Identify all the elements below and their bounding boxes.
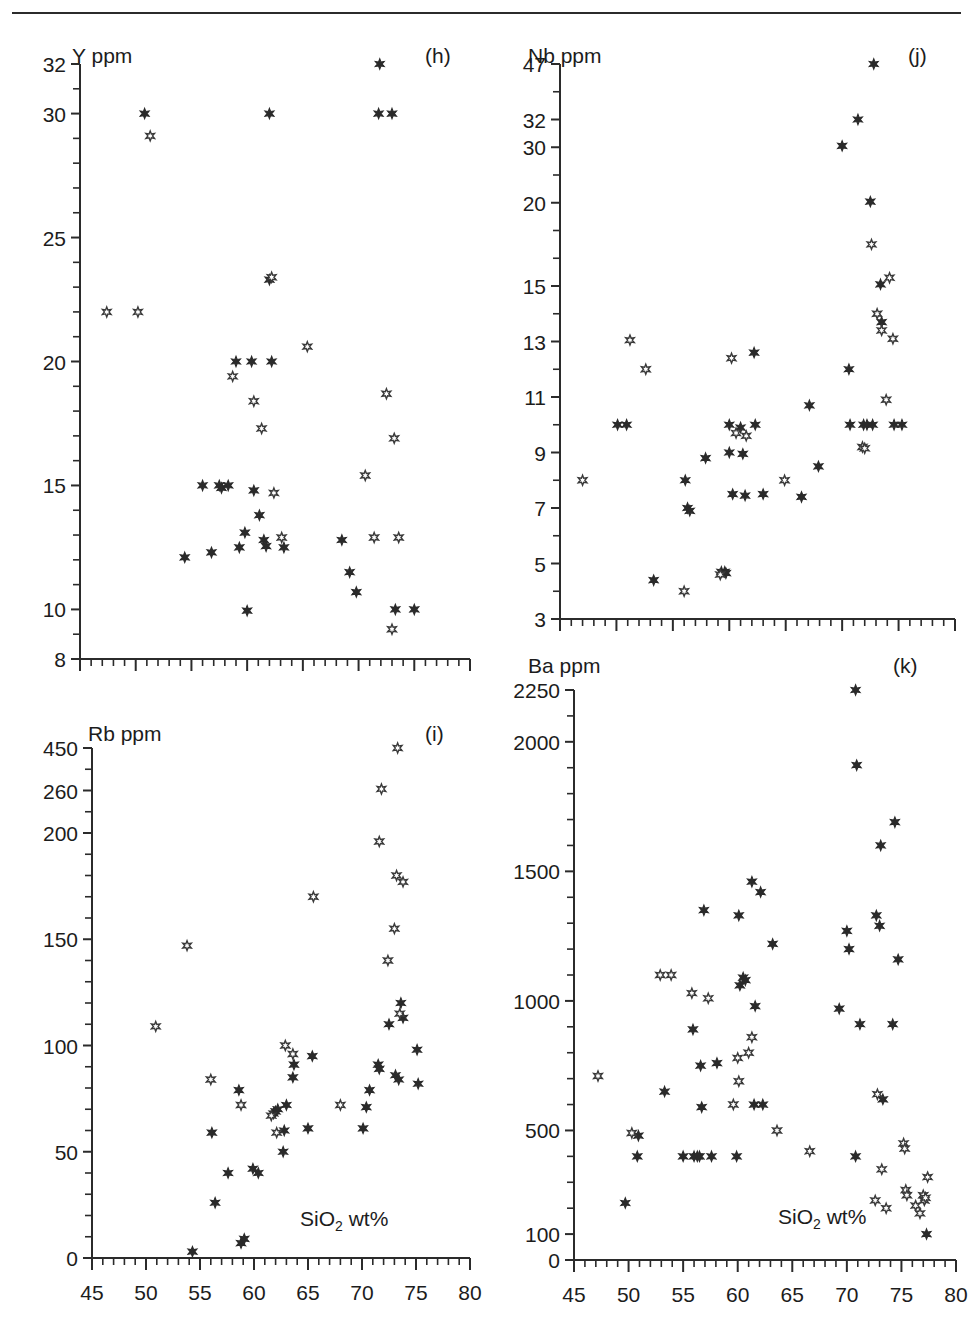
- data-point-open: [390, 433, 399, 443]
- data-point-filled: [374, 108, 383, 118]
- data-point-filled: [751, 1001, 760, 1011]
- y-tick-label: 450: [43, 737, 78, 760]
- data-point-open: [877, 325, 886, 335]
- x-tick-label: 60: [242, 1281, 265, 1304]
- data-point-open: [911, 1201, 920, 1211]
- data-point-filled: [699, 905, 708, 915]
- data-point-filled: [875, 921, 884, 931]
- y-tick-label: 100: [525, 1223, 560, 1246]
- data-point-open: [916, 1208, 925, 1218]
- x-tick-label: 50: [617, 1283, 640, 1306]
- data-point-open: [375, 837, 384, 847]
- data-point-filled: [345, 567, 354, 577]
- data-point-filled: [391, 604, 400, 614]
- x-tick-label: 80: [944, 1283, 967, 1306]
- y-tick-label: 9: [534, 442, 546, 465]
- data-point-filled: [282, 1100, 291, 1110]
- data-point-open: [183, 941, 192, 951]
- data-point-filled: [249, 485, 258, 495]
- data-point-open: [873, 309, 882, 319]
- data-point-filled: [701, 453, 710, 463]
- data-point-filled: [741, 490, 750, 500]
- data-point-filled: [265, 108, 274, 118]
- data-point-filled: [768, 939, 777, 949]
- data-point-filled: [725, 447, 734, 457]
- x-tick-label: 75: [890, 1283, 913, 1306]
- data-point-filled: [288, 1072, 297, 1082]
- data-point-filled: [337, 535, 346, 545]
- y-tick-label: 15: [43, 474, 66, 497]
- data-point-filled: [750, 1099, 759, 1109]
- x-tick-label: 75: [404, 1281, 427, 1304]
- y-tick-label: 7: [534, 497, 546, 520]
- y-tick-label: 2250: [513, 679, 560, 702]
- data-point-open: [134, 307, 143, 317]
- y-tick-label: 20: [43, 351, 66, 374]
- data-point-filled: [751, 420, 760, 430]
- panel-i-axis-title: Rb ppm: [88, 722, 162, 746]
- data-point-filled: [846, 420, 855, 430]
- data-point-filled: [414, 1079, 423, 1089]
- y-tick-label: 20: [523, 192, 546, 215]
- data-point-open: [773, 1125, 782, 1135]
- panel-k: Ba ppm (k) SiO2 wt% 01005001000150020002…: [488, 650, 968, 1342]
- x-tick-label: 55: [188, 1281, 211, 1304]
- x-tick-label: 60: [726, 1283, 749, 1306]
- data-point-filled: [866, 196, 875, 206]
- y-tick-label: 5: [534, 553, 546, 576]
- y-tick-label: 50: [55, 1141, 78, 1164]
- data-point-filled: [649, 575, 658, 585]
- data-point-filled: [188, 1246, 197, 1256]
- panel-j: Nb ppm (j) 357911131520303247: [488, 30, 968, 650]
- data-point-open: [882, 1203, 891, 1213]
- data-point-open: [206, 1075, 215, 1085]
- data-point-filled: [279, 1147, 288, 1157]
- x-tick-label: 65: [296, 1281, 319, 1304]
- x-tick-label: 70: [835, 1283, 858, 1306]
- data-point-filled: [198, 480, 207, 490]
- x-tick-label: 45: [562, 1283, 585, 1306]
- data-point-filled: [362, 1102, 371, 1112]
- y-tick-label: 13: [523, 331, 546, 354]
- data-point-filled: [234, 1085, 243, 1095]
- data-point-open: [656, 970, 665, 980]
- data-point-filled: [845, 944, 854, 954]
- y-tick-label: 0: [548, 1249, 560, 1272]
- data-point-filled: [851, 1151, 860, 1161]
- x-tick-label: 70: [350, 1281, 373, 1304]
- panel-i-tag: (i): [425, 722, 444, 746]
- panel-h: Y ppm (h) 8101520253032: [0, 30, 480, 690]
- data-point-filled: [207, 1127, 216, 1137]
- data-point-filled: [224, 1168, 233, 1178]
- data-point-filled: [738, 449, 747, 459]
- data-point-open: [667, 970, 676, 980]
- data-point-filled: [304, 1123, 313, 1133]
- data-point-filled: [613, 420, 622, 430]
- data-point-open: [871, 1195, 880, 1205]
- panel-h-plot: 8101520253032: [0, 30, 480, 690]
- y-tick-label: 100: [43, 1035, 78, 1058]
- data-point-open: [729, 1100, 738, 1110]
- data-point-filled: [897, 420, 906, 430]
- data-point-filled: [235, 542, 244, 552]
- y-tick-label: 3: [534, 608, 546, 631]
- data-point-open: [882, 395, 891, 405]
- y-tick-label: 150: [43, 928, 78, 951]
- data-point-open: [250, 396, 259, 406]
- data-point-filled: [180, 552, 189, 562]
- data-point-filled: [759, 489, 768, 499]
- x-tick-label: 45: [80, 1281, 103, 1304]
- data-point-filled: [805, 400, 814, 410]
- y-tick-label: 200: [43, 822, 78, 845]
- data-point-filled: [352, 587, 361, 597]
- x-tick-label: 80: [458, 1281, 481, 1304]
- data-point-open: [309, 892, 318, 902]
- panel-k-xlabel: SiO2 wt%: [778, 1205, 866, 1232]
- panel-k-axis-title: Ba ppm: [528, 654, 600, 678]
- data-point-open: [594, 1071, 603, 1081]
- data-point-open: [382, 389, 391, 399]
- data-point-filled: [838, 141, 847, 151]
- y-tick-label: 1000: [513, 990, 560, 1013]
- data-point-filled: [842, 926, 851, 936]
- data-point-filled: [707, 1151, 716, 1161]
